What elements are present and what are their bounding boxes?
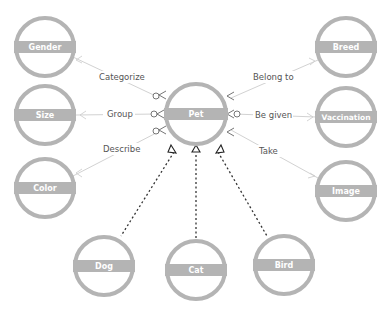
node-image[interactable]: Image	[315, 162, 377, 220]
node-label: Color	[33, 184, 57, 193]
node-label: Breed	[333, 43, 360, 52]
node-label: Size	[36, 111, 55, 120]
node-vaccination[interactable]: Vaccination	[315, 88, 377, 146]
label-take: Take	[258, 146, 278, 156]
node-label: Bird	[275, 261, 294, 270]
node-label: Dog	[95, 262, 113, 271]
label-be-given: Be given	[255, 110, 292, 120]
node-label: Cat	[188, 266, 203, 275]
node-pet[interactable]: Pet	[164, 84, 228, 144]
node-bird[interactable]: Bird	[253, 236, 315, 294]
label-describe: Describe	[103, 144, 140, 154]
node-cat[interactable]: Cat	[165, 241, 227, 299]
inheritance-edges	[121, 152, 267, 240]
node-size[interactable]: Size	[14, 86, 76, 144]
node-dog[interactable]: Dog	[73, 237, 135, 295]
node-label: Image	[332, 187, 360, 196]
node-breed[interactable]: Breed	[315, 18, 377, 76]
er-diagram: Categorize Group Describe Belong to Be g…	[0, 0, 388, 311]
node-gender[interactable]: Gender	[14, 18, 76, 76]
inheritance-arrowheads	[168, 145, 224, 153]
label-belong-to: Belong to	[253, 72, 294, 82]
node-label: Vaccination	[322, 113, 371, 122]
label-categorize: Categorize	[99, 72, 145, 82]
node-label: Gender	[29, 43, 62, 52]
label-group: Group	[107, 109, 133, 119]
entity-nodes: Gender Size Color Pet Breed	[14, 18, 377, 299]
node-color[interactable]: Color	[14, 159, 76, 217]
node-label: Pet	[188, 110, 203, 119]
